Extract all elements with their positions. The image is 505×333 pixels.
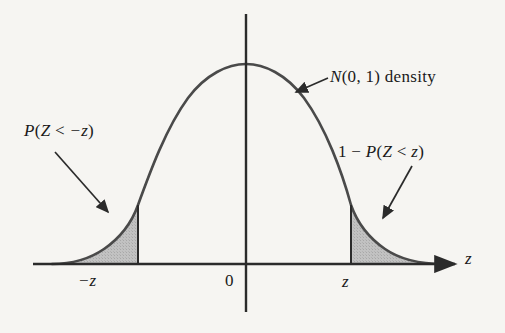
density-label-rest: (0, 1) density — [342, 67, 436, 86]
density-curve-label: N(0, 1) density — [330, 68, 436, 85]
normal-density-figure: N(0, 1) density P(Z < −z) 1 − P(Z < z) −… — [0, 0, 505, 333]
left-tail-probability-label: P(Z < −z) — [24, 122, 94, 139]
right-tail-label-lead: 1 − — [338, 142, 366, 161]
left-tail-label-p: P — [24, 121, 35, 140]
left-tail-label-bound: −z — [69, 121, 88, 140]
right-tail-label-leader-line — [383, 166, 412, 218]
density-plot-svg — [0, 0, 505, 333]
axis-tick-label-neg-z: −z — [78, 272, 96, 289]
density-label-leader-line — [296, 78, 328, 92]
left-tail-label-leader-line — [55, 152, 108, 212]
density-label-symbol: N — [330, 67, 342, 86]
axis-tick-label-pos-z: z — [342, 273, 349, 290]
left-tail-label-close-paren: ) — [88, 121, 94, 140]
normal-curve — [52, 64, 443, 264]
axis-tick-label-zero: 0 — [225, 272, 234, 289]
right-tail-label-relation: < — [392, 142, 411, 161]
horizontal-axis-name: z — [465, 250, 472, 267]
right-tail-label-p: P — [366, 142, 377, 161]
right-tail-label-variable: Z — [382, 142, 392, 161]
left-tail-label-variable: Z — [41, 121, 51, 140]
left-tail-label-relation: < — [50, 121, 69, 140]
right-tail-label-close-paren: ) — [418, 142, 424, 161]
right-tail-probability-label: 1 − P(Z < z) — [338, 143, 424, 160]
